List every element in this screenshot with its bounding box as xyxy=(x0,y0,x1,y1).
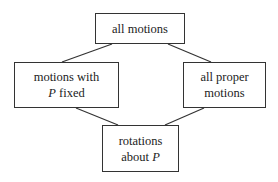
node-label-line2: about P xyxy=(121,149,160,165)
edge-all-to-proper xyxy=(168,44,211,62)
node-motions-with-p-fixed: motions with P fixed xyxy=(14,62,119,108)
node-rotations-about-p: rotations about P xyxy=(102,125,179,172)
edge-proper-to-rotations xyxy=(165,108,204,125)
node-label-line1: rotations xyxy=(119,133,163,149)
edge-fixed-to-rotations xyxy=(76,108,118,125)
node-all-proper-motions: all proper motions xyxy=(183,62,266,108)
node-label: all motions xyxy=(112,21,168,37)
variable-p: P xyxy=(152,150,160,164)
node-label-line1: all proper xyxy=(200,69,248,85)
node-all-motions: all motions xyxy=(95,13,185,44)
node-label-line1: motions with xyxy=(34,69,100,85)
variable-p: P xyxy=(48,86,56,100)
edge-all-to-fixed xyxy=(62,44,112,62)
node-label-line2: P fixed xyxy=(48,85,84,101)
node-label-line2: motions xyxy=(204,85,244,101)
